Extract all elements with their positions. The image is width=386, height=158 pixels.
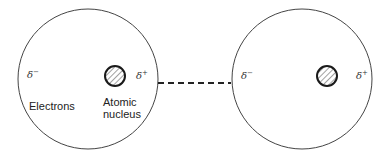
right-atom: δ− δ+ (232, 9, 372, 149)
dipole-diagram: δ− δ+ Electrons Atomic nucleus δ− δ+ (0, 0, 386, 158)
nucleus-label-line2: nucleus (103, 108, 141, 120)
electrons-label: Electrons (29, 100, 75, 112)
left-delta-minus: δ− (27, 68, 39, 80)
left-delta-plus: δ+ (136, 69, 148, 81)
right-delta-minus: δ− (241, 69, 253, 81)
right-nucleus-icon (317, 66, 337, 86)
left-atom: δ− δ+ Electrons Atomic nucleus (18, 9, 158, 149)
right-electron-cloud (232, 9, 372, 149)
left-nucleus-icon (105, 66, 125, 86)
nucleus-label-line1: Atomic (103, 96, 137, 108)
right-delta-plus: δ+ (356, 69, 368, 81)
